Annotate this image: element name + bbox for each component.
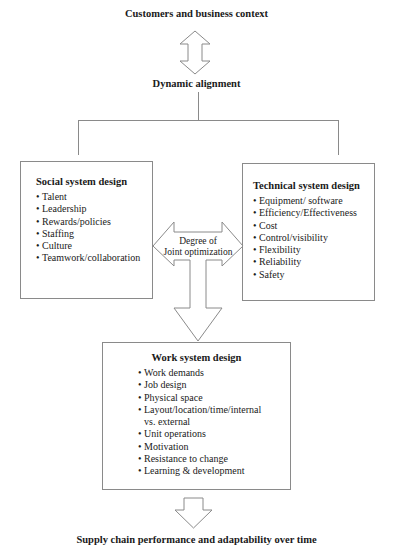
list-item: •Rewards/policies: [36, 216, 152, 228]
technical-system-title: Technical system design: [253, 180, 374, 191]
list-item: •Cost: [253, 220, 374, 232]
list-item: •Teamwork/collaboration: [36, 252, 152, 264]
list-item: •Learning & development: [138, 465, 290, 477]
list-item: •Efficiency/Effectiveness: [253, 207, 374, 219]
connector-right-drop: [338, 120, 339, 155]
list-item: •Job design: [138, 379, 290, 391]
technical-system-list: •Equipment/ software •Efficiency/Effecti…: [253, 195, 374, 281]
list-item: •Layout/location/time/internal: [138, 404, 290, 416]
joint-label-line1: Degree of: [152, 236, 244, 247]
social-system-list: •Talent •Leadership •Rewards/policies •S…: [36, 191, 152, 265]
work-system-title: Work system design: [103, 352, 290, 363]
list-item-continuation: vs. external: [138, 416, 290, 428]
list-item: •Resistance to change: [138, 453, 290, 465]
alignment-label: Dynamic alignment: [0, 78, 393, 89]
connector-left-drop: [78, 120, 79, 155]
list-item: •Leadership: [36, 203, 152, 215]
list-item: •Control/visibility: [253, 232, 374, 244]
work-system-box: Work system design •Work demands •Job de…: [102, 342, 291, 490]
list-item: •Equipment/ software: [253, 195, 374, 207]
list-item: •Reliability: [253, 256, 374, 268]
list-item: •Flexibility: [253, 244, 374, 256]
social-system-title: Social system design: [36, 176, 152, 187]
top-label: Customers and business context: [0, 8, 393, 19]
list-item: •Work demands: [138, 367, 290, 379]
connector-horizontal: [78, 120, 339, 121]
list-item: •Culture: [36, 240, 152, 252]
double-arrow-icon: [178, 30, 212, 75]
connector-vertical-center: [198, 92, 199, 120]
social-system-box: Social system design •Talent •Leadership…: [20, 161, 153, 299]
list-item: •Talent: [36, 191, 152, 203]
list-item: •Staffing: [36, 228, 152, 240]
work-system-list: •Work demands •Job design •Physical spac…: [138, 367, 290, 478]
list-item: •Unit operations: [138, 428, 290, 440]
bottom-label: Supply chain performance and adaptabilit…: [0, 534, 393, 545]
list-item: •Physical space: [138, 392, 290, 404]
joint-optimization-label: Degree of Joint optimization: [152, 236, 244, 258]
down-arrow-icon: [174, 497, 214, 529]
joint-optimization-arrow-icon: [152, 216, 244, 342]
joint-label-line2: Joint optimization: [152, 247, 244, 258]
list-item: •Safety: [253, 269, 374, 281]
list-item: •Motivation: [138, 441, 290, 453]
technical-system-box: Technical system design •Equipment/ soft…: [242, 163, 375, 301]
